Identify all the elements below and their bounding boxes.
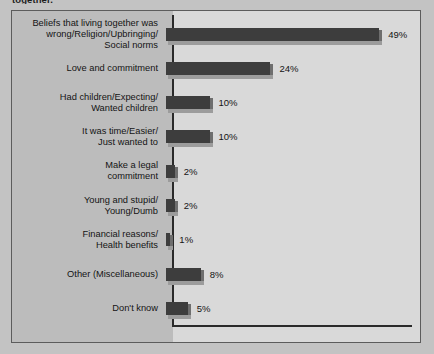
- category-label: Financial reasons/ Health benefits: [12, 229, 164, 251]
- bar: [166, 233, 170, 246]
- chart-frame: Beliefs that living together was wrong/R…: [11, 10, 421, 343]
- category-label: Beliefs that living together was wrong/R…: [12, 18, 164, 51]
- bar: [166, 96, 210, 109]
- bar-value-label: 5%: [197, 303, 211, 314]
- bar-value-label: 10%: [219, 131, 238, 142]
- bar-row: Love and commitment24%: [12, 51, 420, 85]
- bar-value-label: 10%: [219, 97, 238, 108]
- category-label: Make a legal commitment: [12, 160, 164, 182]
- category-label: Young and stupid/ Young/Dumb: [12, 195, 164, 217]
- bar-container: 2%: [164, 154, 420, 188]
- bar-row: Financial reasons/ Health benefits1%: [12, 223, 420, 257]
- bar-value-label: 2%: [184, 166, 198, 177]
- bar-row: Make a legal commitment2%: [12, 154, 420, 188]
- bar-value-label: 24%: [279, 63, 298, 74]
- category-label: Other (Miscellaneous): [12, 269, 164, 280]
- bar-container: 2%: [164, 189, 420, 223]
- bar-row: Other (Miscellaneous)8%: [12, 257, 420, 291]
- bar-row: Beliefs that living together was wrong/R…: [12, 17, 420, 51]
- bar: [166, 165, 175, 178]
- bar: [166, 199, 175, 212]
- bar-row: Don't know5%: [12, 291, 420, 325]
- bar-container: 10%: [164, 86, 420, 120]
- bar: [166, 302, 188, 315]
- bar-container: 1%: [164, 223, 420, 257]
- bar-container: 8%: [164, 257, 420, 291]
- bar-container: 24%: [164, 51, 420, 85]
- category-label: It was time/Easier/ Just wanted to: [12, 126, 164, 148]
- bar-value-label: 1%: [179, 234, 193, 245]
- category-label: Don't know: [12, 303, 164, 314]
- bar-container: 10%: [164, 120, 420, 154]
- bar: [166, 130, 210, 143]
- bar-row: Young and stupid/ Young/Dumb2%: [12, 189, 420, 223]
- bar: [166, 268, 201, 281]
- bar-value-label: 49%: [388, 29, 407, 40]
- bar-row: Had children/Expecting/ Wanted children1…: [12, 86, 420, 120]
- category-label: Had children/Expecting/ Wanted children: [12, 92, 164, 114]
- bar: [166, 28, 379, 41]
- bar-chart-plot: Beliefs that living together was wrong/R…: [12, 11, 420, 342]
- bar-value-label: 2%: [184, 200, 198, 211]
- category-label: Love and commitment: [12, 63, 164, 74]
- chart-caption: together.: [12, 0, 53, 4]
- bar-value-label: 8%: [210, 269, 224, 280]
- bar-row: It was time/Easier/ Just wanted to10%: [12, 120, 420, 154]
- bar-container: 5%: [164, 291, 420, 325]
- bar: [166, 62, 270, 75]
- bar-container: 49%: [164, 17, 420, 51]
